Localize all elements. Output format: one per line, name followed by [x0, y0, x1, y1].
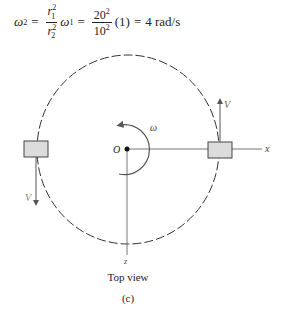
origin-label: O: [113, 144, 120, 155]
origin-point: [125, 147, 130, 152]
view-caption: Top view: [0, 271, 256, 283]
omega-rotation-arrow-icon: [119, 125, 149, 175]
velocity-label-left: V: [25, 192, 33, 203]
x-axis-label: x: [264, 143, 270, 154]
omega-label: ω: [150, 122, 157, 133]
velocity-label-right: V: [224, 99, 232, 110]
left-block: [24, 141, 48, 157]
z-axis-label: z: [123, 257, 128, 266]
right-block: [208, 142, 232, 158]
figure-label: (c): [0, 292, 256, 304]
